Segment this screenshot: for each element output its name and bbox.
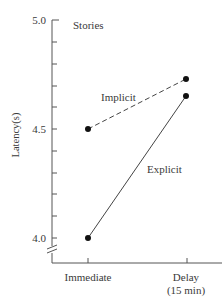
series-explicit-point-delay <box>183 93 189 99</box>
chart: 5.0 4.5 4.0 Latency(s) Stories Immediate… <box>0 0 222 306</box>
series-implicit-label: Implicit <box>101 91 136 103</box>
axis-break-mark <box>47 249 57 253</box>
series-implicit-line <box>88 79 186 129</box>
series-explicit-label: Explicit <box>147 163 182 175</box>
x-label-immediate: Immediate <box>64 271 111 283</box>
y-tick-label-4.5: 4.5 <box>32 123 46 135</box>
y-tick-label-5.0: 5.0 <box>32 14 46 26</box>
x-label-delay: Delay <box>173 271 200 283</box>
y-ticks <box>52 20 59 238</box>
series-explicit-point-immediate <box>85 235 91 241</box>
y-tick-label-4.0: 4.0 <box>32 232 46 244</box>
series-implicit-point-immediate <box>85 126 91 132</box>
y-axis-label: Latency(s) <box>10 112 22 157</box>
series-implicit-point-delay <box>183 76 189 82</box>
chart-title: Stories <box>73 19 104 31</box>
x-label-delay-sub: (15 min) <box>167 284 206 297</box>
